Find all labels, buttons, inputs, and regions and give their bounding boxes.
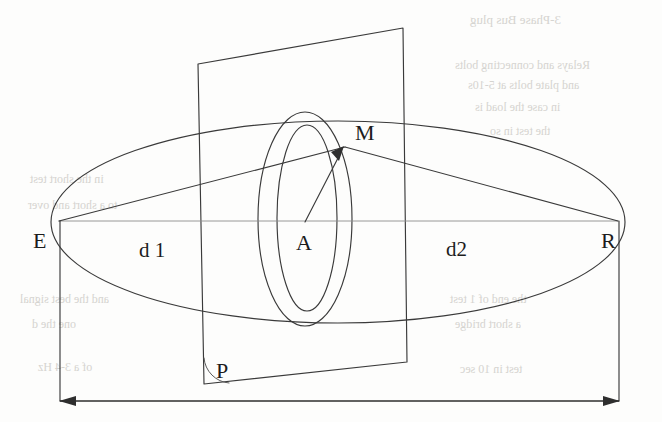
arrow-center-to-m-shaft	[305, 158, 338, 222]
label-emitter: E	[33, 228, 46, 253]
label-reflection-point: M	[355, 120, 375, 145]
label-center: A	[296, 230, 312, 255]
focal-ellipse-outer	[258, 112, 352, 326]
ray-emitter-to-m	[59, 147, 345, 221]
label-plane: P	[216, 358, 228, 383]
label-distance-left: d 1	[139, 238, 165, 262]
ray-m-to-receiver	[345, 147, 618, 221]
dimension-arrow-left	[59, 396, 76, 406]
label-receiver: R	[601, 228, 616, 253]
geometry-figure: E R M A P d 1 d2	[0, 0, 662, 422]
figure-page: 3-Phase Bus plug Relays and connecting b…	[0, 0, 662, 422]
dimension-arrow-right	[603, 396, 620, 406]
plane-quad	[198, 28, 407, 384]
label-distance-right: d2	[446, 237, 467, 261]
